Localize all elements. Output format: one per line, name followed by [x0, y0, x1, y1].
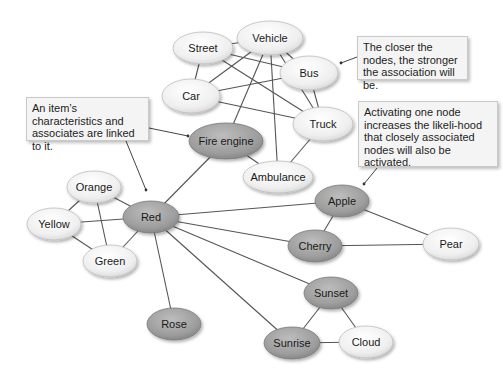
callout-activation: Activating one node increases the likeli… [358, 101, 498, 167]
node-label: Rose [161, 318, 187, 330]
node-label: Car [182, 90, 200, 102]
node-label: Bus [300, 67, 319, 79]
node-bus: Bus [280, 56, 338, 90]
node-label: Cherry [298, 240, 332, 252]
callout-text: Activating one node increases the likeli… [364, 106, 482, 168]
node-label: Orange [76, 181, 113, 193]
node-label: Sunrise [273, 337, 310, 349]
pointer-dot [145, 189, 148, 192]
node-rose: Rose [147, 308, 201, 340]
node-label: Sunset [314, 287, 348, 299]
pointer-line [341, 57, 357, 63]
node-car: Car [162, 79, 220, 113]
node-fire-engine: Fire engine [189, 123, 263, 159]
node-label: Ambulance [250, 171, 305, 183]
callout-closer-nodes: The closer the nodes, the stronger the a… [357, 36, 468, 80]
node-label: Truck [309, 118, 337, 130]
node-label: Cloud [352, 336, 381, 348]
pointer-dot [187, 135, 190, 138]
node-label: Green [95, 255, 126, 267]
semantic-network-diagram: StreetVehicleBusCarTruckFire engineAmbul… [0, 0, 503, 378]
node-label: Red [141, 211, 161, 223]
node-vehicle: Vehicle [237, 21, 303, 55]
node-street: Street [173, 32, 233, 64]
node-green: Green [83, 245, 137, 277]
node-cherry: Cherry [288, 230, 342, 262]
node-orange: Orange [67, 171, 121, 203]
node-cloud: Cloud [339, 326, 393, 358]
node-sunset: Sunset [304, 277, 358, 309]
node-label: Yellow [38, 218, 69, 230]
node-label: Apple [328, 195, 356, 207]
node-label: Fire engine [198, 135, 253, 147]
node-ambulance: Ambulance [243, 161, 313, 193]
callout-characteristics: An item’s characteristics and associates… [26, 97, 149, 141]
pointer-dot [340, 62, 343, 65]
pointer-line [126, 141, 146, 190]
edge-red-apple [151, 201, 342, 217]
node-red: Red [123, 201, 179, 233]
node-sunrise: Sunrise [264, 327, 320, 359]
pointer-dot [363, 183, 366, 186]
pointer-line [149, 128, 188, 136]
pointer-line [364, 168, 377, 184]
node-label: Street [188, 42, 217, 54]
node-truck: Truck [293, 107, 353, 141]
node-label: Pear [439, 238, 463, 250]
node-yellow: Yellow [27, 208, 81, 240]
edge-vehicle-ambulance [270, 38, 278, 177]
node-pear: Pear [423, 228, 479, 260]
node-apple: Apple [315, 185, 369, 217]
node-label: Vehicle [252, 32, 287, 44]
